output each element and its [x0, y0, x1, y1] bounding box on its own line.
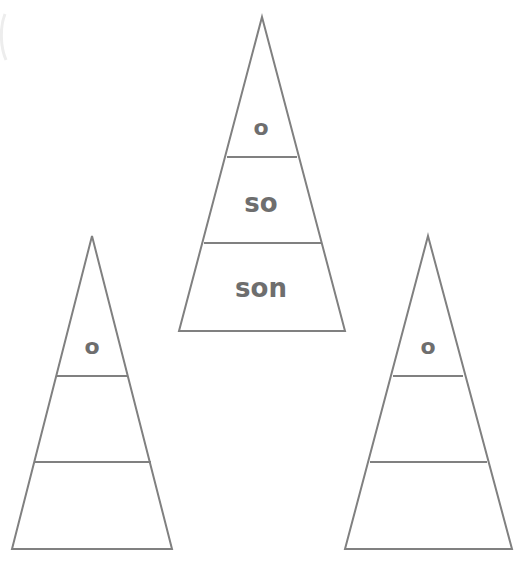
left-pyramid-outline	[12, 236, 172, 549]
middle-pyramid-band-top-label: o	[253, 115, 268, 140]
right-pyramid-band-top-label: o	[420, 334, 435, 359]
diagram-canvas: o o so son o	[0, 0, 529, 571]
middle-pyramid: o so son	[179, 17, 345, 331]
middle-pyramid-band-middle-label: so	[244, 188, 277, 218]
left-pyramid-band-top-label: o	[84, 334, 99, 359]
left-pyramid: o	[12, 236, 172, 549]
middle-pyramid-band-bottom-label: son	[235, 273, 287, 303]
right-pyramid: o	[345, 236, 512, 549]
scan-artifact	[1, 14, 6, 60]
right-pyramid-outline	[345, 236, 512, 549]
pyramid-diagram: o o so son o	[0, 0, 529, 571]
